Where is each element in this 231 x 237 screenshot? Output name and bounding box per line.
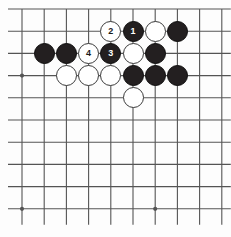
stone-black — [145, 43, 166, 64]
stone-black — [167, 21, 188, 42]
stone-black — [145, 65, 166, 86]
stone-move-number: 4 — [86, 49, 91, 58]
stone-white-4: 4 — [78, 43, 99, 64]
star-point — [20, 207, 24, 211]
stone-black — [167, 65, 188, 86]
stone-move-number: 3 — [108, 49, 113, 58]
stone-black — [34, 43, 55, 64]
stone-white — [56, 65, 77, 86]
stone-black — [123, 65, 144, 86]
stone-white — [123, 87, 144, 108]
stone-white — [123, 43, 144, 64]
stone-move-number: 2 — [108, 26, 113, 35]
star-point — [20, 74, 24, 78]
go-board-diagram: 2143 — [0, 0, 231, 237]
stone-black-1: 1 — [123, 21, 144, 42]
stone-move-number: 1 — [130, 26, 135, 35]
stone-black — [56, 43, 77, 64]
stone-white-2: 2 — [100, 21, 121, 42]
stone-white — [145, 21, 166, 42]
star-point — [153, 207, 157, 211]
